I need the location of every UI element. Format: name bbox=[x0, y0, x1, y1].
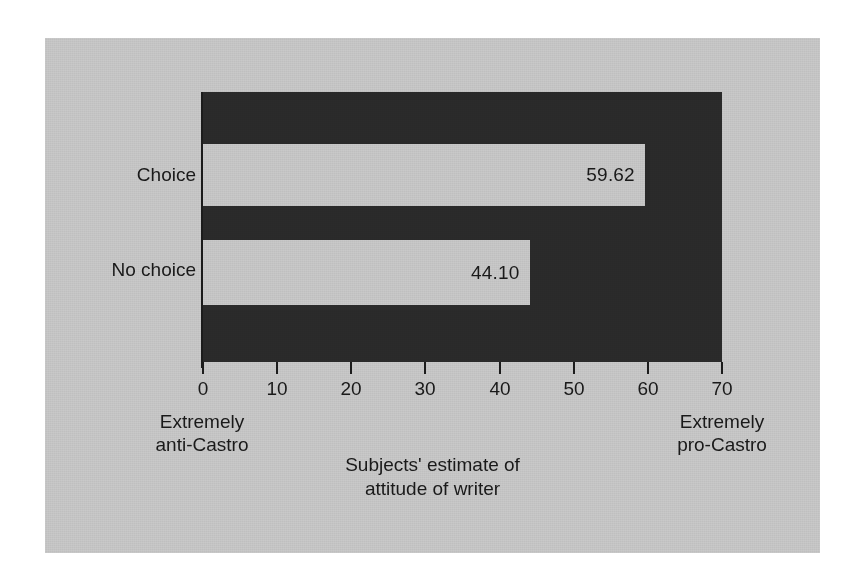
bar-value-no-choice: 44.10 bbox=[471, 262, 520, 284]
x-tick-label-20: 20 bbox=[340, 378, 361, 400]
bar-value-choice: 59.62 bbox=[586, 164, 635, 186]
x-tick-label-10: 10 bbox=[266, 378, 287, 400]
x-tick-20 bbox=[350, 362, 352, 374]
x-tick-label-60: 60 bbox=[637, 378, 658, 400]
x-axis-title-line1: Subjects' estimate of bbox=[345, 453, 520, 477]
x-tick-label-0: 0 bbox=[198, 378, 209, 400]
bar-choice: 59.62 bbox=[202, 144, 645, 206]
figure-panel: 59.62 44.10 0 10 20 30 40 50 60 70 Choic… bbox=[45, 38, 820, 553]
x-axis-title-line2: attitude of writer bbox=[345, 477, 520, 501]
x-axis-title: Subjects' estimate of attitude of writer bbox=[345, 453, 520, 501]
x-tick-60 bbox=[647, 362, 649, 374]
axis-anchor-high: Extremely pro-Castro bbox=[677, 410, 767, 456]
x-tick-70 bbox=[721, 362, 723, 374]
x-tick-label-30: 30 bbox=[414, 378, 435, 400]
axis-anchor-high-line1: Extremely bbox=[677, 410, 767, 433]
x-tick-0 bbox=[202, 362, 204, 374]
bar-no-choice: 44.10 bbox=[202, 240, 530, 305]
axis-anchor-low-line1: Extremely bbox=[156, 410, 249, 433]
axis-anchor-low: Extremely anti-Castro bbox=[156, 410, 249, 456]
axis-anchor-low-line2: anti-Castro bbox=[156, 433, 249, 456]
category-label-choice: Choice bbox=[137, 164, 196, 186]
axis-anchor-high-line2: pro-Castro bbox=[677, 433, 767, 456]
x-tick-50 bbox=[573, 362, 575, 374]
x-tick-40 bbox=[499, 362, 501, 374]
x-tick-label-70: 70 bbox=[711, 378, 732, 400]
x-tick-label-40: 40 bbox=[489, 378, 510, 400]
plot-area: 59.62 44.10 bbox=[202, 92, 722, 362]
x-tick-10 bbox=[276, 362, 278, 374]
y-axis-line bbox=[201, 92, 203, 368]
x-tick-30 bbox=[424, 362, 426, 374]
category-label-no-choice: No choice bbox=[112, 259, 197, 281]
x-tick-label-50: 50 bbox=[563, 378, 584, 400]
